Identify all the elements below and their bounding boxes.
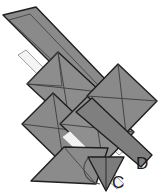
label-d: D: [136, 154, 148, 173]
label-c: C: [112, 173, 124, 192]
figure-canvas: C D: [0, 0, 158, 196]
geometric-figure: C D: [0, 0, 158, 196]
